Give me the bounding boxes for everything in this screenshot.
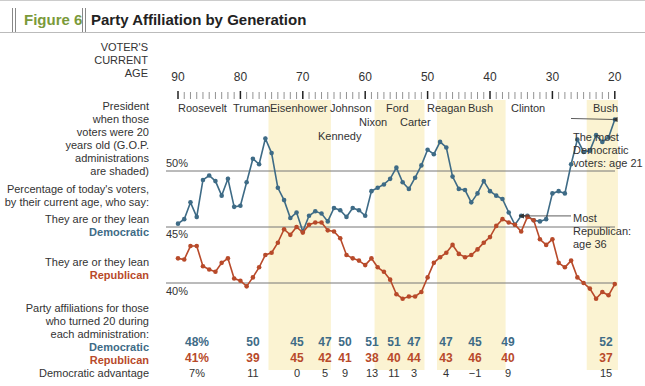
democratic-point xyxy=(319,211,324,216)
affiliation-label-line: each administration: xyxy=(0,328,149,341)
republican-point xyxy=(394,292,399,297)
row-label-democratic: Democratic xyxy=(0,341,149,354)
democratic-point xyxy=(357,208,362,213)
president-label-line: President xyxy=(20,100,149,113)
democratic-point xyxy=(338,208,343,213)
democratic-point xyxy=(394,165,399,170)
y-label-40: 40% xyxy=(166,285,188,297)
republican-point xyxy=(313,220,318,225)
president-label-line: when those xyxy=(20,113,149,126)
democratic-point xyxy=(251,156,256,161)
x-tick-label: 60 xyxy=(350,70,380,84)
democratic-point xyxy=(388,177,393,182)
legend-republican: They are or they lean Republican xyxy=(0,256,149,282)
table-cell-republican: 41 xyxy=(330,351,360,365)
democratic-point xyxy=(413,175,418,180)
democratic-point xyxy=(438,140,443,145)
republican-point xyxy=(294,225,299,230)
republican-point xyxy=(319,220,324,225)
republican-point xyxy=(201,264,206,269)
percentage-label-line: by their current age, who say: xyxy=(0,196,149,209)
republican-point xyxy=(219,261,224,266)
republican-point xyxy=(375,265,380,270)
president-label: Carter xyxy=(400,116,431,128)
republican-point xyxy=(382,270,387,275)
legend-dem-name: Democratic xyxy=(0,226,149,239)
democratic-point xyxy=(375,186,380,191)
democratic-point xyxy=(207,173,212,178)
democratic-point xyxy=(182,217,187,222)
table-cell-democratic: 50 xyxy=(238,335,268,349)
democratic-point xyxy=(556,189,561,194)
republican-point xyxy=(182,257,187,262)
row-label-republican: Republican xyxy=(0,354,149,367)
table-cell-democratic: 49 xyxy=(493,335,523,349)
legend-dem-text: They are or they lean xyxy=(0,213,149,226)
republican-point xyxy=(176,256,181,261)
x-tick-label: 80 xyxy=(225,70,255,84)
annotation-line: voters: age 21 xyxy=(573,157,643,170)
president-label-line: administrations xyxy=(20,152,149,165)
republican-point xyxy=(407,294,412,299)
democratic-point xyxy=(325,219,330,224)
republican-point xyxy=(575,275,580,280)
table-cell-dem-advantage: 7% xyxy=(182,367,212,379)
president-label: President when those voters were 20 year… xyxy=(20,100,149,178)
democratic-point xyxy=(232,205,237,210)
democratic-point xyxy=(244,180,249,185)
president-label: Nixon xyxy=(359,116,387,128)
democratic-point xyxy=(219,193,224,198)
republican-point xyxy=(363,263,368,268)
president-label: Kennedy xyxy=(318,130,361,142)
democratic-point xyxy=(550,191,555,196)
president-label: Bush xyxy=(468,102,493,114)
table-cell-democratic: 50 xyxy=(330,335,360,349)
table-cell-republican: 43 xyxy=(431,351,461,365)
republican-point xyxy=(444,250,449,255)
republican-point xyxy=(425,275,430,280)
democratic-point xyxy=(332,206,337,211)
republican-point xyxy=(463,255,468,260)
table-cell-republican: 41% xyxy=(182,351,212,365)
democratic-point xyxy=(544,217,549,222)
democratic-point xyxy=(382,182,387,187)
republican-point xyxy=(513,222,518,227)
x-tick-label: 20 xyxy=(600,70,630,84)
democratic-point xyxy=(313,209,318,214)
annotation-line: age 36 xyxy=(573,238,631,251)
president-label: Ford xyxy=(386,102,409,114)
table-cell-dem-advantage: 0 xyxy=(282,367,312,379)
democratic-point xyxy=(432,152,437,157)
republican-point xyxy=(488,235,493,240)
table-cell-republican: 46 xyxy=(460,351,490,365)
republican-point xyxy=(481,240,486,245)
table-cell-dem-advantage: 11 xyxy=(238,367,268,379)
republican-point xyxy=(344,253,349,258)
republican-point xyxy=(519,229,524,234)
president-label: Reagan xyxy=(427,102,466,114)
democratic-point xyxy=(450,174,455,179)
annotation-line: Republican: xyxy=(573,225,631,238)
president-label-line: voters were 20 xyxy=(20,126,149,139)
president-label-line: are shaded) xyxy=(20,165,149,178)
table-cell-republican: 45 xyxy=(282,351,312,365)
y-label-50: 50% xyxy=(166,157,188,169)
republican-point xyxy=(338,236,343,241)
democratic-point xyxy=(481,179,486,184)
republican-point xyxy=(276,240,281,245)
democratic-point xyxy=(475,191,480,196)
democratic-point xyxy=(188,200,193,205)
republican-point xyxy=(613,282,618,287)
x-tick-label: 70 xyxy=(288,70,318,84)
gop-shade-band xyxy=(437,100,506,286)
republican-point xyxy=(556,261,561,266)
legend-democratic: They are or they lean Democratic xyxy=(0,213,149,239)
democratic-point xyxy=(350,206,355,211)
republican-point xyxy=(188,244,193,249)
republican-point xyxy=(538,237,543,242)
democratic-point xyxy=(444,145,449,150)
table-cell-dem-advantage: 4 xyxy=(431,367,461,379)
affiliation-label: Party affiliations for those who turned … xyxy=(0,302,149,380)
democratic-point xyxy=(226,177,231,182)
table-cell-republican: 39 xyxy=(238,351,268,365)
